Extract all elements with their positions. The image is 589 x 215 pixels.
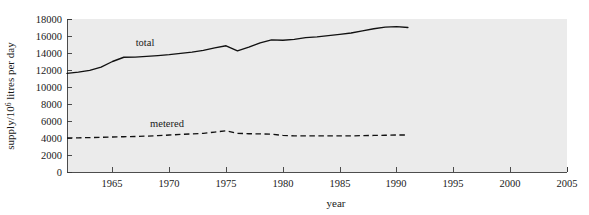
y-axis-title-suffix: litres per day (4, 42, 16, 103)
y-tick-label-0: 0 (57, 167, 62, 178)
series-annotation-metered: metered (150, 118, 185, 129)
y-tick-label-18000: 18000 (36, 14, 62, 25)
y-axis-title-prefix: supply/10 (4, 106, 16, 150)
y-tick-label-16000: 16000 (36, 31, 62, 42)
y-axis-title: supply/106 litres per day (4, 42, 17, 150)
x-tick-label-1990: 1990 (386, 178, 407, 189)
y-tick-label-14000: 14000 (36, 48, 62, 59)
x-tick-label-1980: 1980 (273, 178, 294, 189)
y-tick-label-10000: 10000 (36, 82, 62, 93)
x-tick-label-1995: 1995 (443, 178, 464, 189)
y-tick-label-8000: 8000 (41, 99, 62, 110)
y-tick-label-6000: 6000 (41, 116, 62, 127)
y-tick-label-12000: 12000 (36, 65, 62, 76)
cropped-caption-remnant (0, 0, 589, 2)
y-tick-label-2000: 2000 (41, 150, 62, 161)
x-tick-label-1985: 1985 (330, 178, 351, 189)
x-tick-label-1975: 1975 (216, 178, 237, 189)
x-tick-label-2005: 2005 (557, 178, 578, 189)
x-axis-title: year (327, 197, 346, 209)
x-tick-label-1970: 1970 (159, 178, 180, 189)
series-annotation-total: total (136, 37, 155, 48)
svg-text:supply/106 litres per day: supply/106 litres per day (4, 42, 17, 150)
supply-line-chart: 0 2000 4000 6000 8000 10000 12000 14000 … (0, 0, 589, 215)
y-tick-label-4000: 4000 (41, 133, 62, 144)
x-tick-label-1965: 1965 (102, 178, 123, 189)
x-tick-label-2000: 2000 (500, 178, 521, 189)
chart-figure: 0 2000 4000 6000 8000 10000 12000 14000 … (0, 0, 589, 215)
